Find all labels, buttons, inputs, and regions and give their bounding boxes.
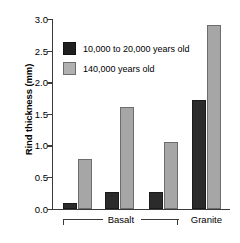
y-tick-label-0.0: 0.0 <box>22 203 48 214</box>
y-tick-3.0 <box>47 19 52 20</box>
bar-dark <box>105 192 119 209</box>
y-tick-label-2.5: 2.5 <box>22 45 48 56</box>
legend-swatch-light-icon <box>63 62 76 75</box>
bar-dark <box>63 203 77 209</box>
y-tick-label-0.5: 0.5 <box>22 172 48 183</box>
legend-item-old-10k-20k: 10,000 to 20,000 years old <box>63 42 190 55</box>
y-tick-0.5 <box>47 177 52 178</box>
y-tick-2.5 <box>47 51 52 52</box>
legend-label-old-140k: 140,000 years old <box>83 64 155 74</box>
y-tick-label-3.0: 3.0 <box>22 14 48 25</box>
category-label-basalt: Basalt <box>81 214 161 225</box>
bar-dark <box>192 100 206 208</box>
y-tick-1.5 <box>47 114 52 115</box>
bar-light <box>207 25 221 208</box>
legend: 10,000 to 20,000 years old 140,000 years… <box>63 42 190 82</box>
bar-group <box>192 20 221 209</box>
legend-label-old-10k-20k: 10,000 to 20,000 years old <box>83 44 190 54</box>
legend-item-old-140k: 140,000 years old <box>63 62 190 75</box>
x-axis-line <box>52 209 230 210</box>
category-label-granite: Granite <box>166 214 240 225</box>
legend-swatch-dark-icon <box>63 42 76 55</box>
rind-thickness-bar-chart: Rind thickness (mm) 3.02.52.01.51.00.50.… <box>0 0 240 243</box>
bar-light <box>120 107 134 208</box>
y-tick-label-1.5: 1.5 <box>22 108 48 119</box>
category-axis: Basalt Granite <box>52 212 230 242</box>
bar-light <box>164 142 178 209</box>
bar-dark <box>149 192 163 209</box>
y-tick-label-2.0: 2.0 <box>22 77 48 88</box>
y-tick-label-1.0: 1.0 <box>22 140 48 151</box>
y-tick-0.0 <box>47 209 52 210</box>
y-tick-2.0 <box>47 82 52 83</box>
y-tick-1.0 <box>47 145 52 146</box>
bar-light <box>78 159 92 209</box>
